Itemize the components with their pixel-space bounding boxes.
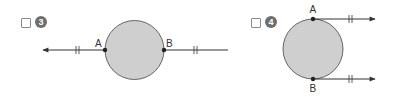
- label-a: A: [310, 4, 317, 15]
- diagram-canvas: A B A B: [0, 0, 398, 97]
- point-a: [103, 48, 107, 52]
- circle-4: [283, 19, 343, 79]
- label-a: A: [95, 38, 102, 49]
- label-b: B: [166, 38, 173, 49]
- figure-3: A B: [43, 21, 228, 80]
- circle-3: [105, 21, 164, 80]
- point-b: [311, 77, 315, 81]
- point-a: [311, 17, 315, 21]
- label-b: B: [310, 83, 317, 94]
- figure-4: A B: [283, 4, 375, 94]
